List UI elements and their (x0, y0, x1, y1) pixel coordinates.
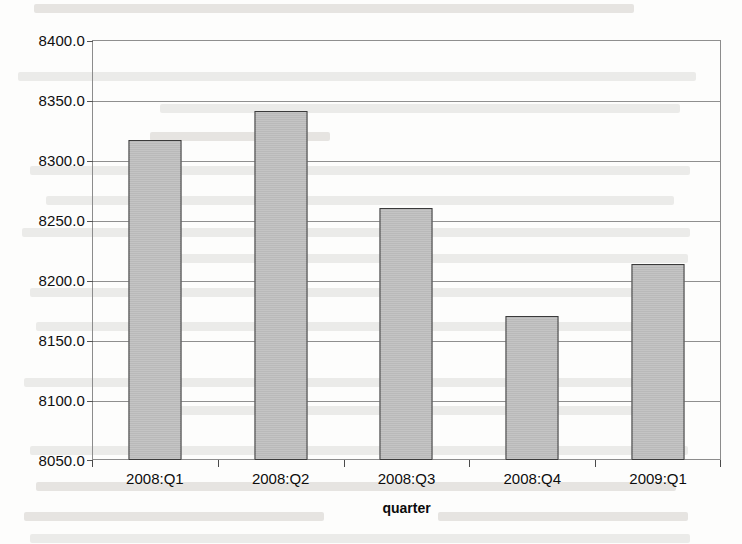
y-axis-tick-label: 8150.0 (39, 332, 85, 349)
bar-slot (595, 40, 721, 460)
bar-2008-q4[interactable] (506, 316, 559, 460)
y-axis-tick-label: 8350.0 (39, 92, 85, 109)
x-axis-tick-labels: 2008:Q1 2008:Q2 2008:Q3 2008:Q4 2009:Q1 (92, 470, 721, 494)
x-axis-tick-label-2009-q1: 2009:Q1 (629, 470, 687, 487)
x-axis-tick-mark (92, 460, 93, 467)
y-axis-tick-label: 8300.0 (39, 152, 85, 169)
y-axis-tick-label: 8050.0 (39, 452, 85, 469)
y-axis-tick-label: 8250.0 (39, 212, 85, 229)
bar-2009-q1[interactable] (632, 264, 685, 460)
y-axis-tick-label: 8400.0 (39, 32, 85, 49)
x-axis-tick-label-2008-q4: 2008:Q4 (504, 470, 562, 487)
bar-slot (218, 40, 344, 460)
x-axis-tick-mark (595, 460, 596, 467)
x-axis-tick-mark (218, 460, 219, 467)
x-axis-tick-label-2008-q2: 2008:Q2 (252, 470, 310, 487)
x-axis-tick-mark (469, 460, 470, 467)
chart-page: 8400.0 8350.0 8300.0 8250.0 8200.0 8150.… (0, 0, 742, 544)
bar-slot (344, 40, 470, 460)
y-axis-tick-labels: 8400.0 8350.0 8300.0 8250.0 8200.0 8150.… (0, 40, 85, 460)
bar-2008-q1[interactable] (128, 140, 181, 460)
bar-slot (92, 40, 218, 460)
bar-2008-q2[interactable] (254, 111, 307, 460)
x-axis-tick-mark (344, 460, 345, 467)
x-axis-tick-marks (92, 460, 721, 468)
y-axis-tick-label: 8100.0 (39, 392, 85, 409)
bar-series (92, 40, 721, 460)
bar-2008-q3[interactable] (380, 208, 433, 460)
x-axis-tick-mark (720, 460, 721, 467)
y-axis-tick-label: 8200.0 (39, 272, 85, 289)
bar-slot (469, 40, 595, 460)
x-axis-tick-label-2008-q1: 2008:Q1 (126, 470, 184, 487)
x-axis-tick-label-2008-q3: 2008:Q3 (378, 470, 436, 487)
x-axis-title: quarter (92, 500, 721, 516)
